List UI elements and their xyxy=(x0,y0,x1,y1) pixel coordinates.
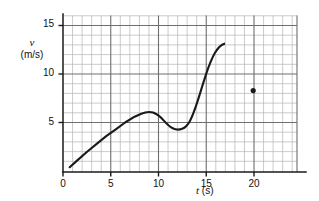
x-axis-symbol: t xyxy=(196,184,199,196)
axis-lines xyxy=(63,14,306,172)
y-tick-label-15: 15 xyxy=(36,19,54,29)
y-tick-label-10: 10 xyxy=(36,68,54,78)
y-axis-title: v (m/s) xyxy=(6,36,58,61)
velocity-time-graph-figure: 15 10 5 0 5 10 15 20 v (m/s) t (s) xyxy=(0,0,319,201)
chart-plot-area xyxy=(0,0,319,201)
x-tick-label-0: 0 xyxy=(53,179,73,189)
grid-major-horizontal xyxy=(63,26,297,123)
y-tick-label-5: 5 xyxy=(36,117,54,127)
x-tick-label-20: 20 xyxy=(244,179,264,189)
x-axis-unit: (s) xyxy=(202,185,214,196)
curve-endpoint-marker xyxy=(251,88,256,93)
x-tick-label-5: 5 xyxy=(101,179,121,189)
grid-minor-horizontal xyxy=(63,16,297,162)
y-axis-symbol: v xyxy=(30,36,35,48)
y-axis-unit: (m/s) xyxy=(21,49,44,60)
x-axis-title: t (s) xyxy=(196,184,214,196)
x-tick-label-10: 10 xyxy=(149,179,169,189)
axis-tick-marks xyxy=(59,26,255,177)
